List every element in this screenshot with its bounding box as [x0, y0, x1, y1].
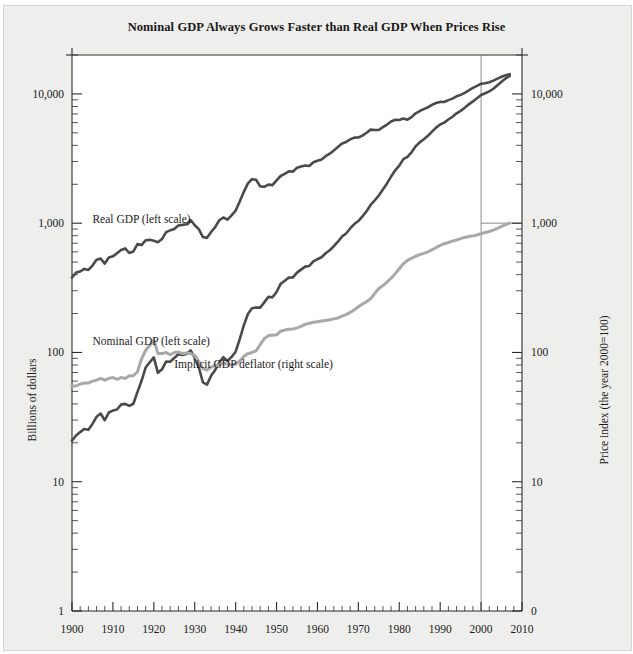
series-label-nominal-gdp: Nominal GDP (left scale) [92, 335, 210, 348]
series-label-gdp-deflator: Implicit GDP deflator (right scale) [174, 358, 333, 371]
x-tick-label: 1950 [265, 623, 288, 635]
series-label-real-gdp: Real GDP (left scale) [92, 213, 190, 226]
x-tick-label: 1980 [388, 623, 411, 635]
figure-container: Nominal GDP Always Grows Faster than Rea… [0, 0, 633, 654]
x-tick-label: 1910 [101, 623, 124, 635]
left-tick-label: 10,000 [32, 88, 64, 101]
chart-title: Nominal GDP Always Grows Faster than Rea… [0, 20, 633, 35]
x-tick-label: 1940 [224, 623, 247, 635]
right-tick-label: 10 [531, 476, 543, 488]
series-line-real-gdp [72, 74, 510, 277]
x-tick-label: 2000 [470, 623, 493, 635]
left-tick-label: 1,000 [38, 217, 64, 230]
plot-area: Real GDP (left scale)Nominal GDP (left s… [72, 55, 522, 611]
x-tick-label: 1960 [306, 623, 329, 635]
right-tick-label: 1,000 [531, 217, 557, 230]
x-tick-label: 1970 [347, 623, 370, 635]
right-tick-label: 0 [531, 605, 537, 617]
right-tick-label: 10,000 [531, 88, 563, 101]
x-tick-label: 1900 [61, 623, 84, 635]
left-tick-label: 1 [58, 605, 64, 617]
left-tick-label: 10 [53, 476, 65, 488]
x-tick-label: 2010 [511, 623, 534, 635]
right-tick-label: 100 [531, 346, 549, 358]
chart-svg: Real GDP (left scale)Nominal GDP (left s… [72, 55, 522, 611]
left-tick-label: 100 [47, 346, 65, 358]
x-tick-label: 1990 [429, 623, 452, 635]
x-tick-label: 1920 [142, 623, 165, 635]
series-line-nominal-gdp [72, 76, 510, 441]
x-tick-label: 1930 [183, 623, 206, 635]
